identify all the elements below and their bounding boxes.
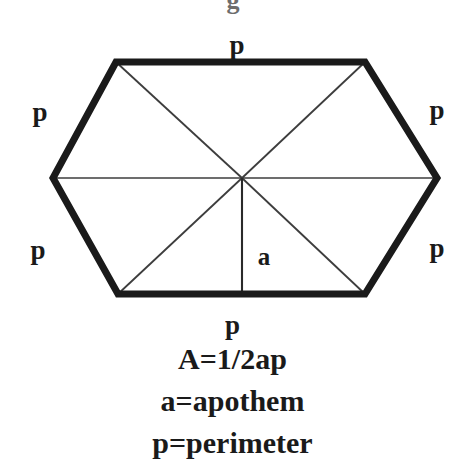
radius-line-top-right	[242, 62, 365, 178]
side-label-lower-left: p	[30, 237, 45, 264]
apothem-label: a	[258, 244, 271, 269]
side-label-top: p	[229, 32, 244, 59]
side-label-bottom: p	[0, 312, 465, 339]
radius-line-bottom-left	[118, 178, 242, 294]
perimeter-definition-text: p=perimeter	[0, 428, 465, 458]
radius-line-top-left	[116, 62, 242, 178]
side-label-upper-right: p	[429, 97, 444, 124]
area-formula-text: A=1/2ap	[0, 344, 465, 374]
side-label-upper-left: p	[32, 99, 47, 126]
hexagon-diagram-page: g p p p p p a p A=1/2ap a=apothem p=peri…	[0, 0, 465, 466]
apothem-definition-text: a=apothem	[0, 386, 465, 416]
radius-line-bottom-right	[242, 178, 365, 294]
side-label-lower-right: p	[429, 235, 444, 262]
